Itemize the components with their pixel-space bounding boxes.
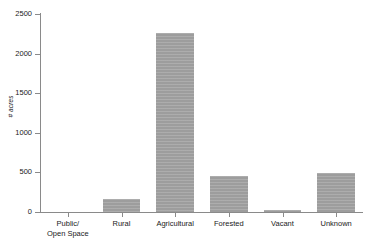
y-axis-title: # acres: [0, 0, 20, 212]
y-tick-mark: [35, 93, 40, 94]
y-tick-mark: [35, 133, 40, 134]
bar: [103, 199, 141, 212]
y-tick-label: 500: [0, 168, 32, 176]
y-tick-mark: [35, 172, 40, 173]
bar-chart: # acres 05001000150020002500 Public/ Ope…: [0, 0, 371, 246]
bar: [210, 176, 248, 212]
x-tick-mark: [336, 213, 337, 217]
x-tick-mark: [229, 213, 230, 217]
x-tick-mark: [68, 213, 69, 217]
y-tick-mark: [35, 54, 40, 55]
y-tick-label: 1000: [0, 129, 32, 137]
y-tick-mark: [35, 212, 40, 213]
y-tick-label: 1500: [0, 89, 32, 97]
y-axis-title-text: # acres: [7, 95, 14, 117]
bar: [317, 173, 355, 212]
x-tick-mark: [283, 213, 284, 217]
x-tick-label: Unknown: [303, 219, 369, 229]
bar: [264, 210, 302, 212]
plot-area: [41, 14, 363, 212]
x-tick-mark: [175, 213, 176, 217]
x-tick-mark: [122, 213, 123, 217]
y-tick-label: 0: [0, 208, 32, 216]
y-tick-label: 2500: [0, 10, 32, 18]
x-axis-line: [41, 212, 363, 213]
y-tick-mark: [35, 14, 40, 15]
bar: [156, 33, 194, 212]
y-tick-label: 2000: [0, 50, 32, 58]
